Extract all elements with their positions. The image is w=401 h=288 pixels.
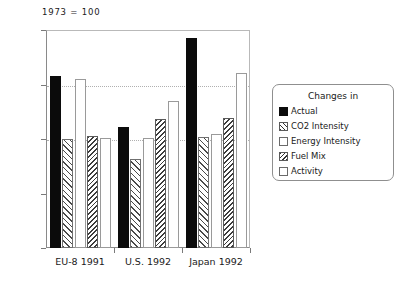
bar: [87, 136, 98, 248]
bar: [118, 127, 129, 248]
legend-item-label: CO2 Intensity: [291, 122, 349, 131]
legend-item[interactable]: CO2 Intensity: [279, 120, 349, 133]
legend-item-label: Actual: [291, 107, 318, 116]
legend-item[interactable]: Actual: [279, 105, 318, 118]
index-note: 1973 = 100: [42, 7, 100, 17]
legend-title: Changes in: [273, 91, 393, 101]
bar: [100, 138, 111, 248]
legend-item-label: Fuel Mix: [291, 152, 326, 161]
chart-panel: 1973 = 100 050100150200 EU-8 1991U.S. 19…: [0, 0, 262, 288]
x-group-label: EU-8 1991: [55, 256, 105, 267]
legend-swatch-icon: [279, 122, 288, 131]
legend-swatch-icon: [279, 107, 288, 116]
x-tick-mark: [182, 248, 183, 253]
x-group-label: U.S. 1992: [125, 256, 171, 267]
bar: [62, 139, 73, 248]
y-tick-mark: [41, 248, 46, 249]
bar: [143, 138, 154, 248]
legend-swatch-icon: [279, 167, 288, 176]
bar: [186, 38, 197, 248]
bar: [75, 79, 86, 248]
legend-swatch-icon: [279, 152, 288, 161]
legend-item[interactable]: Energy Intensity: [279, 135, 360, 148]
bar: [130, 159, 141, 248]
legend: Changes in ActualCO2 IntensityEnergy Int…: [272, 84, 394, 181]
legend-item[interactable]: Activity: [279, 165, 323, 178]
legend-item-label: Activity: [291, 167, 323, 176]
x-group-label: Japan 1992: [189, 256, 243, 267]
figure-root: 1973 = 100 050100150200 EU-8 1991U.S. 19…: [0, 0, 401, 288]
bar: [155, 119, 166, 248]
x-tick-mark: [250, 248, 251, 253]
legend-swatch-icon: [279, 137, 288, 146]
x-tick-mark: [114, 248, 115, 253]
bar: [211, 134, 222, 248]
legend-item-label: Energy Intensity: [291, 137, 360, 146]
bars-layer: [46, 30, 250, 248]
bar: [236, 73, 247, 248]
bar: [198, 137, 209, 248]
legend-item[interactable]: Fuel Mix: [279, 150, 326, 163]
bar: [223, 118, 234, 248]
bar: [50, 76, 61, 248]
bar: [168, 101, 179, 248]
